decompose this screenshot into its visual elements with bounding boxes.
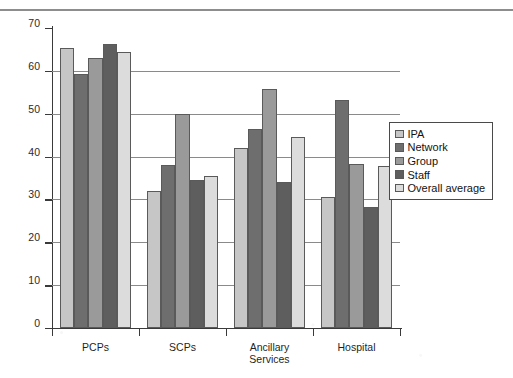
y-axis-label-10: 10 bbox=[14, 275, 40, 285]
y-axis-label-0: 0 bbox=[14, 318, 40, 328]
bar-ancillary-services-ipa bbox=[234, 148, 248, 328]
legend-item-label: Overall average bbox=[408, 182, 486, 194]
legend-swatch-icon bbox=[395, 143, 404, 152]
x-axis-label-pcps: PCPs bbox=[51, 341, 141, 353]
bar-ancillary-services-staff bbox=[277, 182, 291, 328]
y-tick-60 bbox=[45, 71, 52, 72]
bar-scps-overall-average bbox=[204, 176, 218, 328]
bar-scps-network bbox=[161, 165, 175, 328]
bar-hospital-staff bbox=[364, 207, 378, 328]
x-tick-0 bbox=[52, 328, 53, 336]
x-tick-2 bbox=[226, 328, 227, 336]
y-axis-label-40: 40 bbox=[14, 147, 40, 157]
legend-swatch-icon bbox=[395, 157, 404, 166]
y-axis-label-50: 50 bbox=[14, 104, 40, 114]
bar-hospital-network bbox=[335, 100, 349, 328]
x-tick-3 bbox=[313, 328, 314, 336]
x-axis-label-line: PCPs bbox=[51, 341, 141, 353]
x-axis-label-line: Ancillary bbox=[225, 341, 315, 353]
legend-item-network[interactable]: Network bbox=[395, 141, 485, 155]
legend-item-overall-average[interactable]: Overall average bbox=[395, 181, 485, 195]
x-tick-4 bbox=[400, 328, 401, 336]
bar-pcps-group bbox=[88, 58, 102, 328]
legend-swatch-icon bbox=[395, 130, 404, 139]
y-axis-label-60: 60 bbox=[14, 61, 40, 71]
y-tick-0 bbox=[45, 328, 52, 329]
y-axis-label-30: 30 bbox=[14, 189, 40, 199]
x-tick-1 bbox=[139, 328, 140, 336]
bar-ancillary-services-group bbox=[262, 89, 276, 328]
legend-swatch-icon bbox=[395, 170, 404, 179]
bar-pcps-overall-average bbox=[117, 52, 131, 328]
legend-swatch-icon bbox=[395, 184, 404, 193]
y-axis-label-20: 20 bbox=[14, 232, 40, 242]
y-axis-label-70: 70 bbox=[14, 18, 40, 28]
bar-scps-group bbox=[175, 114, 189, 328]
y-tick-70 bbox=[45, 28, 52, 29]
bar-pcps-ipa bbox=[60, 48, 74, 328]
x-axis-label-hospital: Hospital bbox=[312, 341, 402, 353]
legend-item-label: Group bbox=[408, 155, 439, 167]
legend-item-label: IPA bbox=[408, 128, 425, 140]
bar-hospital-group bbox=[349, 164, 363, 328]
y-tick-30 bbox=[45, 199, 52, 200]
legend-item-group[interactable]: Group bbox=[395, 154, 485, 168]
x-axis-label-scps: SCPs bbox=[138, 341, 228, 353]
x-axis-label-line: SCPs bbox=[138, 341, 228, 353]
bar-ancillary-services-network bbox=[248, 129, 262, 328]
x-axis-label-line: Services bbox=[225, 353, 315, 365]
bars-group bbox=[52, 28, 400, 328]
y-tick-20 bbox=[45, 242, 52, 243]
x-axis-label-ancillary-services: AncillaryServices bbox=[225, 341, 315, 365]
y-tick-10 bbox=[45, 285, 52, 286]
bar-hospital-ipa bbox=[321, 197, 335, 328]
legend-item-ipa[interactable]: IPA bbox=[395, 127, 485, 141]
chart-legend: IPANetworkGroupStaffOverall average bbox=[389, 122, 493, 200]
legend-item-label: Network bbox=[408, 141, 448, 153]
bar-scps-ipa bbox=[147, 191, 161, 328]
page-footer-text bbox=[0, 366, 513, 378]
legend-item-label: Staff bbox=[408, 169, 430, 181]
y-tick-50 bbox=[45, 114, 52, 115]
bar-pcps-network bbox=[74, 74, 88, 328]
bar-ancillary-services-overall-average bbox=[291, 137, 305, 328]
bar-scps-staff bbox=[190, 180, 204, 328]
bar-chart: 010203040506070 PCPsSCPsAncillaryService… bbox=[0, 0, 513, 378]
x-axis-label-line: Hospital bbox=[312, 341, 402, 353]
bar-pcps-staff bbox=[103, 44, 117, 328]
y-tick-40 bbox=[45, 157, 52, 158]
legend-item-staff[interactable]: Staff bbox=[395, 168, 485, 182]
